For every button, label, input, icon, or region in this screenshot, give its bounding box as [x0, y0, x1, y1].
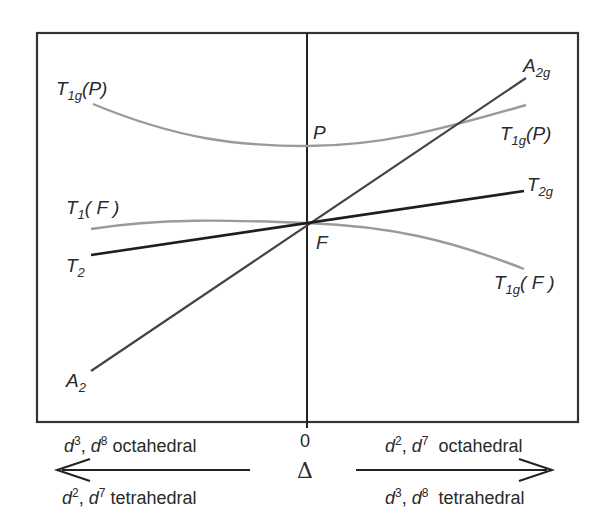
axis-zero-label: 0	[300, 432, 310, 450]
caption-right-bottom: d3, d8 tetrahedral	[385, 487, 524, 507]
label-left-a2: A2	[66, 371, 86, 394]
a2-line	[91, 78, 526, 371]
caption-left-bottom: d2, d7 tetrahedral	[62, 487, 196, 507]
label-p-term: P	[313, 123, 326, 142]
label-right-a2g: A2g	[523, 56, 550, 79]
label-right-t2g: T2g	[527, 175, 553, 198]
label-f-term: F	[316, 233, 328, 252]
label-left-t1-f: T1( F )	[66, 198, 119, 221]
label-right-t1g-p: T1g(P)	[500, 124, 551, 147]
label-right-t1g-f: T1g( F )	[494, 273, 555, 296]
label-left-t2: T2	[66, 256, 85, 279]
label-left-t1g-p: T1g(P)	[56, 79, 107, 102]
caption-left-top: d3, d8 octahedral	[64, 435, 196, 455]
t1g-p-curve	[93, 104, 526, 146]
caption-right-top: d2, d7 octahedral	[385, 435, 522, 455]
delta-symbol: Δ	[297, 460, 313, 482]
